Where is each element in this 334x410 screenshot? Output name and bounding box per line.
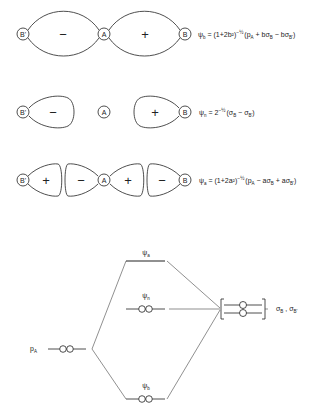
sign-minus: −	[49, 105, 57, 120]
atom-b-prime-label: B'	[20, 109, 26, 116]
label-p-a: pA	[30, 345, 37, 354]
label-psi-b: ψb	[142, 382, 150, 391]
sign-plus-2: +	[124, 173, 132, 188]
correlation-line-pa-to-psi-a	[92, 261, 126, 349]
sign-minus-2: −	[158, 173, 166, 188]
sign-minus-1: −	[77, 173, 85, 188]
atom-a-label: A	[102, 177, 107, 184]
mo-diagram: B' A B − + ψb = (1+2b²)−½(pA + bσB − bσB…	[0, 0, 334, 410]
label-psi-a: ψa	[142, 249, 150, 258]
sign-minus: −	[59, 27, 67, 42]
antibonding-equation: ψa = (1+2a²)−½(pA − aσB + aσB')	[199, 175, 296, 186]
electron-icon	[240, 310, 247, 317]
sign-plus-1: +	[42, 173, 50, 188]
atom-a-label: A	[102, 109, 107, 116]
atom-a-label: A	[102, 31, 107, 38]
atom-b-label: B	[183, 177, 188, 184]
nonbonding-equation: ψn = 2−½(σB − σB')	[199, 107, 255, 118]
electron-icon	[146, 396, 153, 403]
bracket-right	[262, 299, 265, 319]
correlation-line-pa-to-psi-b	[92, 349, 126, 399]
atom-b-prime-label: B'	[20, 31, 26, 38]
bonding-orbital-drawing: B' A B − +	[17, 11, 191, 56]
correlation-line-psi-b-to-sigma	[167, 310, 220, 399]
bracket-left	[221, 299, 224, 319]
electron-icon	[240, 302, 247, 309]
bonding-equation: ψb = (1+2b²)−½(pA + bσB − bσB')	[198, 29, 295, 40]
atom-b-label: B	[183, 31, 188, 38]
atom-b-prime-label: B'	[20, 177, 26, 184]
atom-b-label: B	[183, 109, 188, 116]
sign-plus: +	[151, 105, 159, 120]
label-sigma-orbitals: σB , σB'	[276, 305, 298, 314]
sign-plus: +	[141, 27, 149, 42]
electron-icon	[67, 346, 74, 353]
antibonding-orbital-drawing: B' A B + − + −	[17, 164, 191, 196]
nonbonding-orbital-drawing: B' A B − +	[17, 96, 191, 128]
correlation-line-psi-a-to-sigma	[167, 261, 220, 308]
electron-icon	[60, 346, 67, 353]
electron-icon	[146, 306, 153, 313]
electron-icon	[139, 306, 146, 313]
energy-level-diagram: ψa ψn ψb pA σB , σB'	[30, 249, 298, 402]
electron-icon	[139, 396, 146, 403]
label-psi-n: ψn	[142, 292, 150, 301]
